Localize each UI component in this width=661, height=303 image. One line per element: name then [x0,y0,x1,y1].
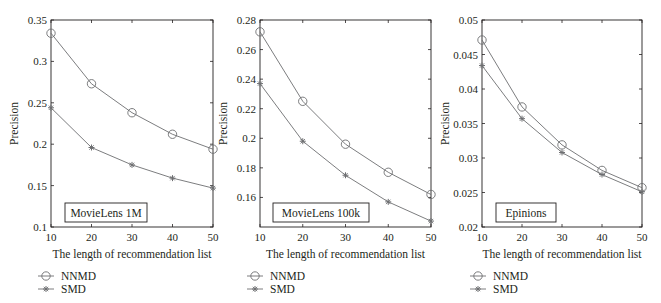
y-tick-label: 0.18 [237,162,257,174]
x-axis-label: The length of recommendation list [266,248,426,261]
y-tick-label: 0.15 [28,180,48,192]
x-axis-label: The length of recommendation list [482,248,642,261]
legend: NNMDSMD [470,270,528,295]
x-tick-label: 30 [557,231,569,243]
y-tick-label: 0.22 [237,103,256,115]
x-tick-label: 30 [127,231,139,243]
legend: NNMDSMD [38,270,96,295]
chart-panel-1: 10203040500.10.150.20.250.30.35Precision… [8,14,219,295]
x-tick-label: 10 [46,231,58,243]
chart-panel-2: 10203040500.160.180.20.220.240.260.28Pre… [217,14,437,295]
y-tick-label: 0.04 [459,83,479,95]
chart-panel-3: 10203040500.020.0250.030.0350.040.0450.0… [439,14,648,295]
series-line-smd [482,66,642,192]
plot-area [260,20,431,227]
x-tick-label: 10 [255,231,267,243]
legend-label-nnmd: NNMD [61,270,96,282]
x-tick-label: 40 [597,231,609,243]
plot-area [482,20,642,227]
dataset-annotation-label: MovieLens 1M [70,207,141,219]
y-tick-label: 0.25 [28,97,48,109]
x-axis-label: The length of recommendation list [52,248,212,261]
dataset-annotation-label: Epinions [506,207,547,220]
y-tick-label: 0.03 [459,152,479,164]
series-line-smd [260,84,431,222]
y-tick-label: 0.035 [453,118,478,130]
x-tick-label: 50 [208,231,220,243]
series-line-smd [51,108,213,188]
y-axis-label: Precision [439,102,451,145]
x-tick-label: 40 [167,231,179,243]
x-tick-label: 20 [517,231,529,243]
y-tick-label: 0.3 [33,55,47,67]
y-tick-label: 0.025 [453,187,478,199]
legend-label-nnmd: NNMD [493,270,528,282]
y-tick-label: 0.35 [28,14,48,26]
x-tick-label: 40 [383,231,395,243]
legend-label-nnmd: NNMD [270,270,305,282]
y-tick-label: 0.05 [459,14,479,26]
x-tick-label: 30 [340,231,352,243]
y-tick-label: 0.28 [237,14,257,26]
y-tick-label: 0.24 [237,73,257,85]
dataset-annotation-label: MovieLens 100k [282,207,361,219]
chart-figure: 10203040500.10.150.20.250.30.35Precision… [0,0,661,303]
legend-label-smd: SMD [270,283,295,295]
y-tick-label: 0.2 [33,138,47,150]
y-tick-label: 0.2 [242,132,256,144]
y-tick-label: 0.1 [33,221,47,233]
plot-area [51,20,213,227]
y-tick-label: 0.16 [237,191,257,203]
x-tick-label: 50 [637,231,649,243]
x-tick-label: 20 [297,231,309,243]
y-tick-label: 0.02 [459,221,478,233]
legend-label-smd: SMD [493,283,518,295]
y-axis-label: Precision [8,102,20,145]
y-tick-label: 0.26 [237,44,257,56]
y-tick-label: 0.045 [453,49,478,61]
x-tick-label: 20 [86,231,98,243]
y-axis-label: Precision [217,102,229,145]
series-line-nnmd [260,32,431,195]
x-tick-label: 50 [426,231,438,243]
legend: NNMDSMD [247,270,305,295]
legend-label-smd: SMD [61,283,86,295]
series-line-nnmd [482,40,642,188]
x-tick-label: 10 [477,231,489,243]
